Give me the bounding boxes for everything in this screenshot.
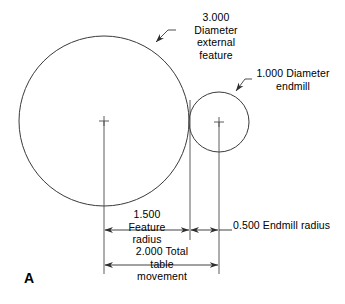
dimension-label-endmill-radius: 0.500 Endmill radius [233,219,345,232]
annotation-external-feature: 3.000 Diameter external feature [174,11,258,61]
panel-letter-label: A [24,270,34,286]
leader-external-feature [156,30,176,42]
dimension-label-table-movement: 2.000 Total table movement [110,245,214,283]
technical-drawing-figure: 3.000 Diameter external feature 1.000 Di… [0,0,345,304]
annotation-endmill-diameter: 1.000 Diameter endmill [244,67,342,92]
dimension-label-feature-radius: 1.500 Feature radius [108,208,186,246]
